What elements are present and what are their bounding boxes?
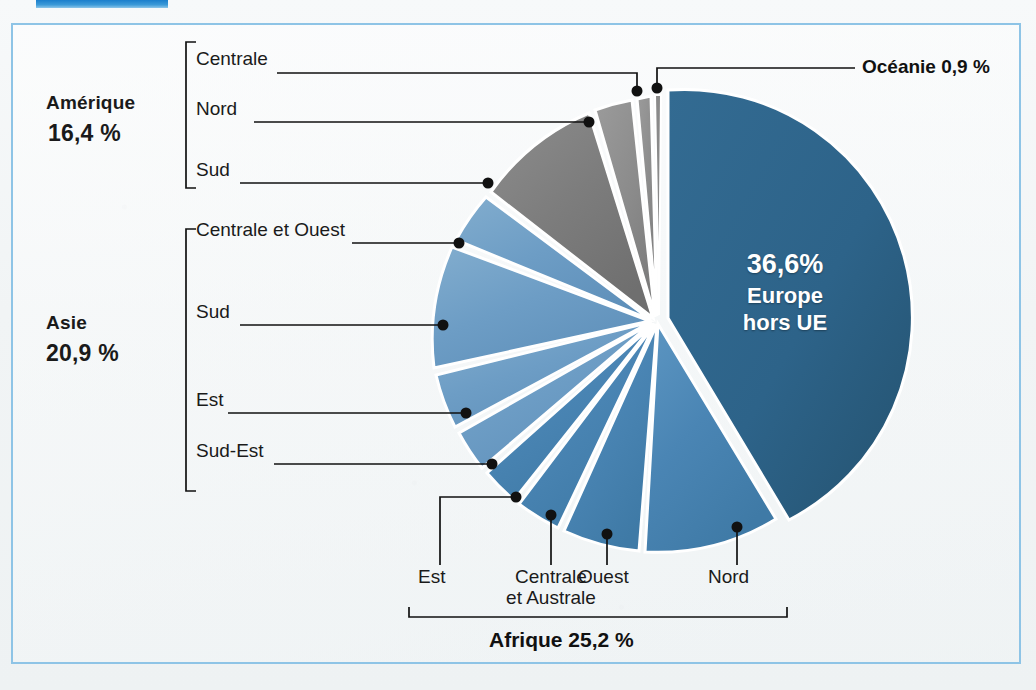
group-percent-amerique: 16,4 % (48, 120, 121, 147)
dot-afrique-est (511, 492, 522, 503)
dot-asie-centrale-ouest (454, 238, 465, 249)
center-percent: 36,6% (700, 248, 870, 282)
afrique-centrale-line1: Centrale (515, 566, 587, 587)
dot-asie-sud-est (487, 459, 498, 470)
slice-label-asie-est: Est (196, 389, 223, 411)
dot-afrique-ouest (602, 529, 613, 540)
afrique-centrale-line2: et Australe (506, 587, 596, 608)
slice-label-asie-sud-est: Sud-Est (196, 440, 264, 462)
dot-afrique-centrale-australe (546, 510, 557, 521)
group-percent-asie: 20,9 % (46, 340, 119, 367)
slice-label-afrique-est: Est (418, 566, 445, 588)
bracket-amerique (186, 42, 196, 188)
dot-oceanie (652, 83, 663, 94)
dot-amerique-sud (483, 178, 494, 189)
leader-amerique-centrale (277, 73, 637, 91)
dot-amerique-nord (584, 117, 595, 128)
group-label-amerique: Amérique (46, 92, 135, 114)
slice-label-asie-sud: Sud (196, 301, 230, 323)
slice-label-afrique-ouest: Ouest (578, 566, 629, 588)
slice-label-amerique-sud: Sud (196, 159, 230, 181)
bracket-asie (186, 229, 196, 491)
slice-label-asie-centrale-et-ouest: Centrale et Ouest (196, 219, 345, 241)
group-label-asie: Asie (46, 312, 87, 334)
slice-label-afrique-nord: Nord (708, 566, 749, 588)
callout-oceanie: Océanie 0,9 % (862, 56, 990, 78)
center-callout: 36,6% Europe hors UE (700, 248, 870, 337)
center-line2: hors UE (700, 309, 870, 337)
callout-afrique: Afrique 25,2 % (489, 628, 634, 652)
center-line1: Europe (700, 282, 870, 310)
dot-amerique-centrale (632, 86, 643, 97)
leader-afrique-est (440, 497, 516, 565)
slice-label-amerique-nord: Nord (196, 98, 237, 120)
dot-afrique-nord (732, 522, 743, 533)
dot-asie-sud (438, 320, 449, 331)
slice-label-amerique-centrale: Centrale (196, 48, 268, 70)
dot-asie-est (461, 408, 472, 419)
leader-oceanie (657, 68, 855, 88)
